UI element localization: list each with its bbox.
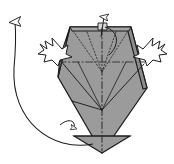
origami-diagram-root [0, 0, 174, 164]
small-tuck-arrow [60, 121, 74, 128]
origami-diagram-canvas [0, 0, 174, 164]
